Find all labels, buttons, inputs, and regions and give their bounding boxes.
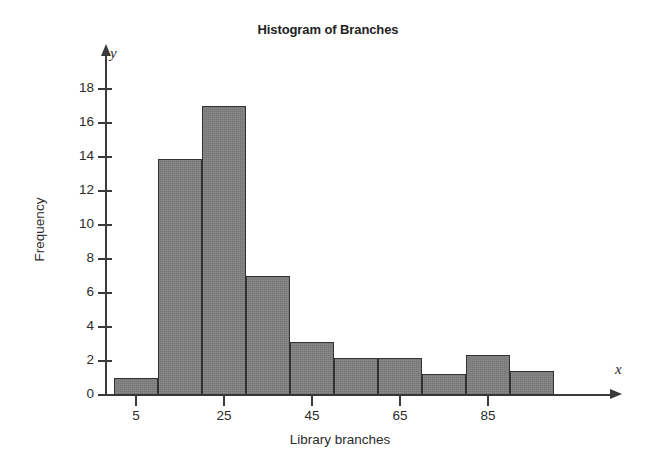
y-axis-tick-label: 14 xyxy=(60,148,94,163)
y-axis-tick xyxy=(98,156,112,157)
histogram-bar xyxy=(246,276,290,395)
y-axis-tick-label: 4 xyxy=(60,318,94,333)
x-axis-tick-label: 45 xyxy=(292,408,332,423)
x-axis-tick xyxy=(487,396,488,406)
y-axis-title: Frequency xyxy=(32,150,47,310)
y-axis-tick xyxy=(98,88,112,89)
y-axis-tick-label: 0 xyxy=(60,386,94,401)
y-axis-tick-label: 16 xyxy=(60,114,94,129)
plot-area: y x 024681012141618 525456585 Frequency … xyxy=(0,0,656,475)
y-axis-tick-label: 6 xyxy=(60,284,94,299)
histogram-bar xyxy=(466,355,510,395)
x-axis-tick xyxy=(135,396,136,406)
histogram-bar xyxy=(378,358,422,395)
x-axis-tick xyxy=(223,396,224,406)
y-axis-tick-label: 8 xyxy=(60,250,94,265)
y-axis-tick-label: 18 xyxy=(60,80,94,95)
y-axis-tick-label: 12 xyxy=(60,182,94,197)
y-axis-tick-label: 10 xyxy=(60,216,94,231)
histogram-bar xyxy=(422,374,466,395)
x-axis-tick-label: 65 xyxy=(380,408,420,423)
y-axis-tick xyxy=(98,292,112,293)
x-axis-tick-label: 5 xyxy=(116,408,156,423)
y-axis-variable-label: y xyxy=(110,45,117,62)
x-axis-tick xyxy=(311,396,312,406)
y-axis-tick xyxy=(98,394,112,395)
y-axis-tick xyxy=(98,224,112,225)
x-axis-tick-label: 25 xyxy=(204,408,244,423)
y-axis-tick xyxy=(98,326,112,327)
histogram-bar xyxy=(510,371,554,395)
y-axis-tick xyxy=(98,122,112,123)
histogram-bar xyxy=(334,358,378,395)
histogram-bar xyxy=(202,106,246,395)
y-axis-tick xyxy=(98,360,112,361)
y-axis-tick xyxy=(98,190,112,191)
y-axis-tick xyxy=(98,258,112,259)
x-axis-variable-label: x xyxy=(615,361,622,378)
x-axis-title: Library branches xyxy=(185,432,495,447)
histogram-bar xyxy=(114,378,158,395)
histogram-bar xyxy=(158,159,202,395)
x-axis-tick xyxy=(399,396,400,406)
x-axis-tick-label: 85 xyxy=(468,408,508,423)
x-axis-arrow-icon xyxy=(610,389,622,399)
y-axis-tick-label: 2 xyxy=(60,352,94,367)
histogram-bar xyxy=(290,342,334,395)
histogram-figure: Histogram of Branches y x 02468101214161… xyxy=(0,0,656,475)
